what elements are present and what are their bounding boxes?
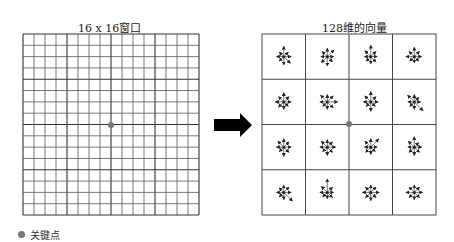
vector-title: 128维的向量: [322, 19, 387, 35]
cell-center-dot: [326, 100, 329, 103]
cell-center-dot: [326, 191, 329, 194]
cell-center-dot: [282, 146, 285, 149]
cell-center-dot: [282, 55, 285, 58]
cell-center-dot: [282, 100, 285, 103]
gradient-vector-arrow: [284, 192, 292, 201]
cell-center-dot: [369, 146, 372, 149]
right-arrow-icon: [214, 113, 252, 137]
cell-center-dot: [413, 191, 416, 194]
cell-center-dot: [369, 191, 372, 194]
keypoint-legend-icon: [18, 231, 25, 238]
legend-label: 关键点: [30, 227, 60, 242]
cell-center-dot: [369, 55, 372, 58]
cell-center-dot: [413, 55, 416, 58]
legend: 关键点: [18, 227, 60, 242]
keypoint-marker: [346, 121, 352, 127]
cell-center-dot: [413, 100, 416, 103]
gradient-vector-arrow: [371, 139, 379, 147]
cell-center-dot: [282, 191, 285, 194]
cell-center-dot: [326, 55, 329, 58]
diagram-canvas: [0, 0, 454, 242]
cell-center-dot: [413, 146, 416, 149]
cell-center-dot: [326, 146, 329, 149]
cell-center-dot: [369, 100, 372, 103]
keypoint-marker: [108, 122, 114, 128]
gradient-vector-arrow: [414, 102, 422, 111]
window-title: 16 x 16窗口: [78, 19, 141, 35]
